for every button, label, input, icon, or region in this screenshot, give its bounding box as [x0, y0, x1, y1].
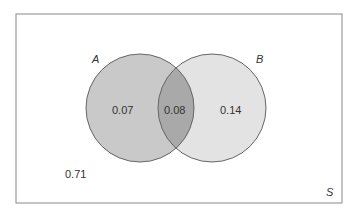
set-a-label: A	[91, 53, 99, 65]
intersection-value: 0.08	[164, 104, 185, 116]
neither-value: 0.71	[65, 168, 86, 180]
b-only-value: 0.14	[220, 104, 241, 116]
a-only-value: 0.07	[112, 104, 133, 116]
universe-label: S	[326, 186, 334, 198]
set-b-label: B	[256, 53, 263, 65]
venn-diagram: A B 0.07 0.08 0.14 0.71 S	[0, 0, 358, 216]
